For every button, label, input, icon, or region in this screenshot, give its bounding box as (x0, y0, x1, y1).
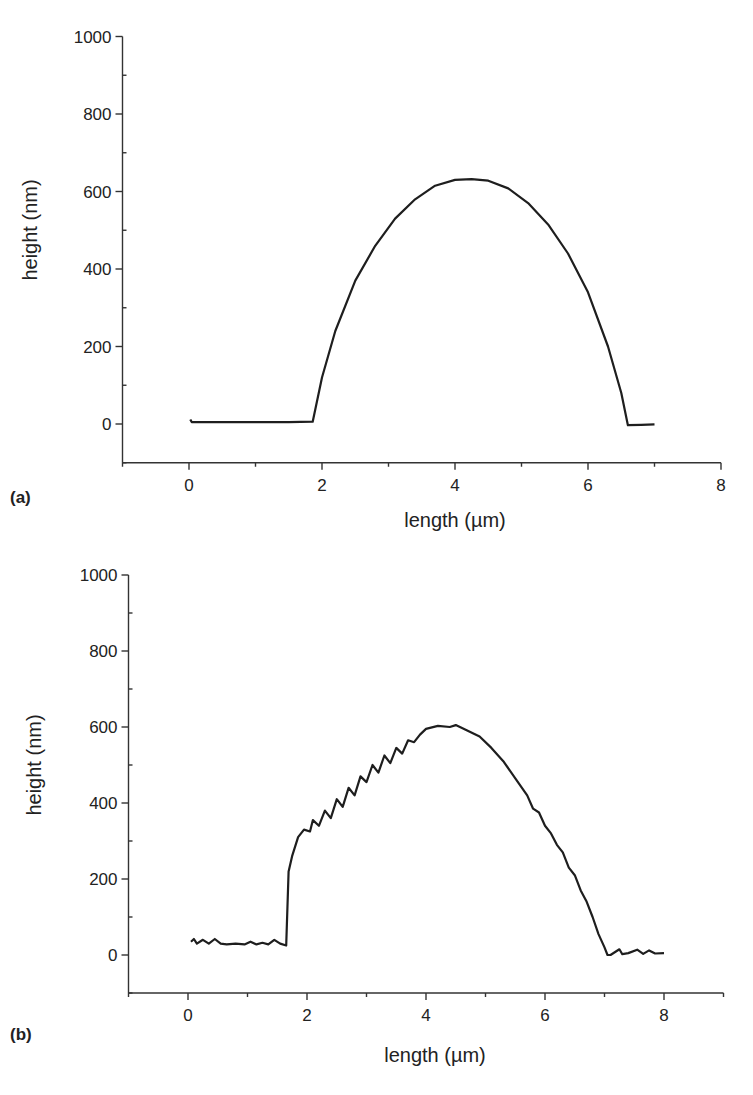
x-tick-label: 6 (583, 476, 592, 495)
y-tick-label: 200 (83, 338, 111, 357)
y-tick-label: 800 (83, 105, 111, 124)
y-tick-label: 400 (83, 260, 111, 279)
y-tick-label: 1000 (74, 28, 112, 47)
panel-label-b: (b) (10, 1025, 32, 1044)
y-tick-label: 800 (89, 642, 117, 661)
y-tick-label: 600 (83, 183, 111, 202)
x-axis-title-a: length (µm) (404, 509, 506, 531)
x-tick-label: 4 (450, 476, 459, 495)
x-tick-label: 8 (716, 476, 725, 495)
y-axis-title-a: height (nm) (19, 179, 41, 280)
y-tick-label: 600 (89, 718, 117, 737)
chart-b-svg: 02004006008001000 02468 height (nm) leng… (0, 540, 753, 1095)
chart-panel-b: 02004006008001000 02468 height (nm) leng… (0, 540, 753, 1095)
profile-curve-b (191, 725, 664, 955)
y-tick-label: 0 (102, 415, 111, 434)
profile-curve-a (190, 179, 654, 425)
x-tick-label: 0 (184, 476, 193, 495)
x-axis-b: 02468 (129, 993, 724, 1025)
y-axis-a: 02004006008001000 (74, 28, 127, 463)
x-tick-label: 0 (183, 1006, 192, 1025)
y-tick-label: 200 (89, 870, 117, 889)
x-tick-label: 4 (421, 1006, 430, 1025)
y-axis-b: 02004006008001000 (80, 566, 133, 993)
chart-a-svg: 02004006008001000 02468 height (nm) leng… (0, 0, 753, 540)
x-tick-label: 2 (317, 476, 326, 495)
y-tick-label: 400 (89, 794, 117, 813)
y-tick-label: 1000 (80, 566, 118, 585)
x-tick-label: 8 (659, 1006, 668, 1025)
x-tick-label: 6 (540, 1006, 549, 1025)
y-tick-label: 0 (108, 946, 117, 965)
x-axis-a: 02468 (123, 463, 726, 495)
x-tick-label: 2 (302, 1006, 311, 1025)
y-axis-title-b: height (nm) (23, 714, 45, 815)
x-axis-title-b: length (µm) (384, 1044, 486, 1066)
chart-panel-a: 02004006008001000 02468 height (nm) leng… (0, 0, 753, 540)
panel-label-a: (a) (10, 488, 31, 507)
